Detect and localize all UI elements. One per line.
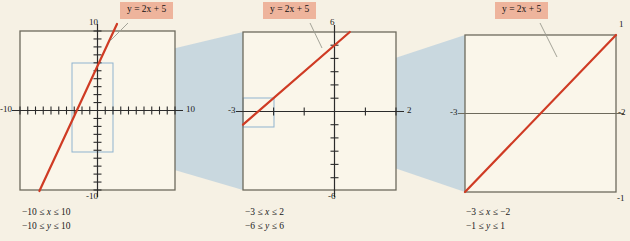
panel-1-right-label: 10	[186, 105, 195, 114]
panel-1-top-label: 10	[89, 18, 98, 27]
panel-2-range-x: −3 ≤ x ≤ 2	[245, 206, 284, 220]
panel-3-left-label: -3	[450, 108, 458, 117]
panel-1-bottom-label: -10	[86, 192, 98, 201]
panel-3-range-y: −1 ≤ y ≤ 1	[466, 220, 510, 234]
panel-3-range-x: −3 ≤ x ≤ −2	[466, 206, 510, 220]
panel-1-range-y: −10 ≤ y ≤ 10	[22, 220, 71, 234]
panel-2-range-x-prefix: −3 ≤	[245, 207, 265, 217]
panel-3-equation-callout: y = 2x + 5	[495, 2, 548, 19]
figure-stage: y = 2x + 5 y = 2x + 5 y = 2x + 5 10 -10 …	[0, 0, 630, 241]
panel-1-range-x-prefix: −10 ≤	[22, 207, 47, 217]
panel-2-bottom-label: -6	[328, 192, 336, 201]
panel-1-range-caption: −10 ≤ x ≤ 10 −10 ≤ y ≤ 10	[22, 206, 71, 234]
panel-1-range-x: −10 ≤ x ≤ 10	[22, 206, 71, 220]
panel-2-right-label: 2	[407, 106, 412, 115]
panel-2-graph	[236, 23, 404, 197]
panel-2-range-caption: −3 ≤ x ≤ 2 −6 ≤ y ≤ 6	[245, 206, 284, 234]
panel-1-range-y-suffix: ≤ 10	[51, 221, 70, 231]
panel-2-range-y: −6 ≤ y ≤ 6	[245, 220, 284, 234]
panel-2-range-x-suffix: ≤ 2	[269, 207, 284, 217]
panel-1-range-x-suffix: ≤ 10	[51, 207, 70, 217]
panel-3-range-caption: −3 ≤ x ≤ −2 −1 ≤ y ≤ 1	[466, 206, 510, 234]
panel-3-range-x-suffix: ≤ −2	[490, 207, 510, 217]
panel-3-range-x-prefix: −3 ≤	[466, 207, 486, 217]
panel-3-top-label: 1	[619, 20, 624, 29]
panel-1-equation-callout: y = 2x + 5	[120, 2, 173, 19]
panel-2-left-label: -3	[228, 106, 236, 115]
panel-2-top-label: 6	[330, 18, 335, 27]
zoom-sequence-figure	[0, 0, 630, 241]
panel-1-left-label: -10	[0, 105, 12, 114]
panel-3-graph	[458, 23, 624, 192]
panel-3-right-label: -2	[618, 108, 626, 117]
panel-2-range-y-suffix: ≤ 6	[269, 221, 284, 231]
panel-3-range-y-suffix: ≤ 1	[490, 221, 505, 231]
panel-3-range-y-prefix: −1 ≤	[466, 221, 486, 231]
panel-1-range-y-prefix: −10 ≤	[22, 221, 47, 231]
panel-1-graph	[12, 23, 183, 197]
panel-2-equation-callout: y = 2x + 5	[263, 2, 316, 19]
panel-2-range-y-prefix: −6 ≤	[245, 221, 265, 231]
panel-3-bottom-label: -1	[617, 194, 625, 203]
